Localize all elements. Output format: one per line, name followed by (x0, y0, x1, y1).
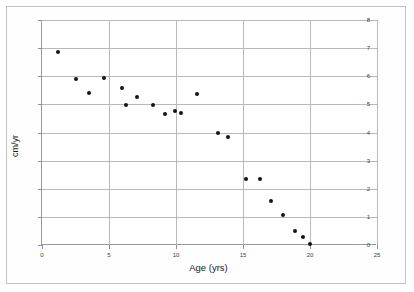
data-point (163, 112, 167, 116)
x-tick-mark (377, 245, 378, 249)
data-point (301, 235, 305, 239)
gridline-horizontal (42, 161, 377, 162)
figure-frame: cm/yr 012345678 0510152025 Age (yrs) (0, 0, 414, 292)
x-tick-label: 25 (374, 252, 381, 258)
y-tick-label: 6 (367, 73, 370, 79)
gridline-vertical (176, 20, 177, 245)
x-tick-mark (109, 245, 110, 249)
data-point (179, 111, 183, 115)
data-point (293, 229, 297, 233)
data-point (244, 177, 248, 181)
gridline-horizontal (42, 48, 377, 49)
data-point (226, 135, 230, 139)
gridline-horizontal (42, 133, 377, 134)
x-tick-label: 20 (307, 252, 314, 258)
gridline-horizontal (42, 20, 377, 21)
data-point (258, 177, 262, 181)
y-tick-mark (38, 76, 42, 77)
x-tick-mark (243, 245, 244, 249)
data-point (56, 50, 60, 54)
data-point (102, 76, 106, 80)
y-tick-label: 1 (367, 214, 370, 220)
data-point (120, 86, 124, 90)
x-tick-mark (42, 245, 43, 249)
gridline-vertical (243, 20, 244, 245)
x-tick-label: 15 (240, 252, 247, 258)
gridline-vertical (377, 20, 378, 245)
gridline-vertical (310, 20, 311, 245)
x-tick-mark (310, 245, 311, 249)
x-tick-mark (176, 245, 177, 249)
plot-area: 012345678 0510152025 (41, 20, 376, 245)
y-tick-label: 7 (367, 45, 370, 51)
y-tick-label: 3 (367, 158, 370, 164)
data-point (195, 92, 199, 96)
x-tick-label: 0 (40, 252, 43, 258)
data-point (74, 77, 78, 81)
y-tick-label: 2 (367, 186, 370, 192)
data-point (87, 91, 91, 95)
data-point (135, 95, 139, 99)
data-point (124, 103, 128, 107)
y-tick-mark (38, 161, 42, 162)
y-tick-mark (38, 20, 42, 21)
y-tick-mark (38, 104, 42, 105)
data-point (308, 242, 312, 246)
y-tick-label: 5 (367, 101, 370, 107)
y-tick-mark (38, 189, 42, 190)
gridline-horizontal (42, 189, 377, 190)
y-tick-label: 8 (367, 17, 370, 23)
x-axis-title: Age (yrs) (41, 262, 376, 273)
gridline-vertical (109, 20, 110, 245)
gridline-horizontal (42, 76, 377, 77)
x-tick-label: 10 (173, 252, 180, 258)
y-tick-mark (38, 133, 42, 134)
gridline-horizontal (42, 217, 377, 218)
y-tick-mark (38, 48, 42, 49)
gridline-horizontal (42, 104, 377, 105)
data-point (216, 131, 220, 135)
data-point (269, 199, 273, 203)
y-tick-label: 4 (367, 130, 370, 136)
y-axis-title: cm/yr (10, 135, 20, 157)
x-tick-label: 5 (107, 252, 110, 258)
y-tick-label: 0 (367, 242, 370, 248)
data-point (151, 103, 155, 107)
y-tick-mark (38, 217, 42, 218)
